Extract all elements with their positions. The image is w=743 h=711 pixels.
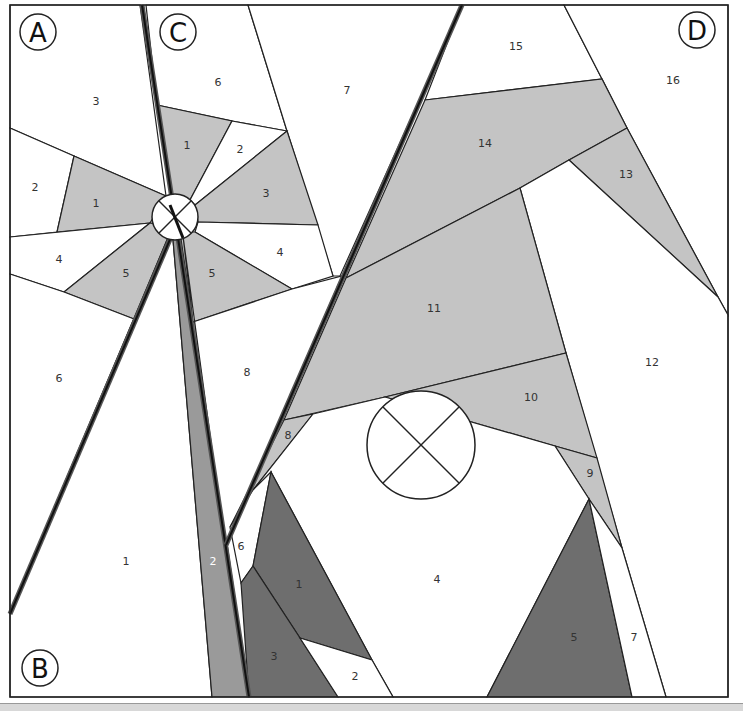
corner-label-c: C — [160, 14, 196, 50]
label-a5: 5 — [123, 267, 130, 280]
label-d11: 11 — [427, 302, 441, 315]
label-d15: 15 — [509, 40, 523, 53]
label-d5: 5 — [571, 631, 578, 644]
label-d1: 1 — [296, 578, 303, 591]
label-d4: 4 — [434, 573, 441, 586]
label-a1: 1 — [93, 197, 100, 210]
label-a2: 2 — [32, 181, 39, 194]
label-c4: 4 — [277, 246, 284, 259]
small-crossed-circle-icon — [152, 194, 198, 240]
label-d14: 14 — [478, 137, 492, 150]
corner-label-d: D — [679, 12, 715, 48]
label-d3: 3 — [271, 650, 278, 663]
corner-label-a: A — [20, 14, 56, 50]
svg-text:A: A — [29, 18, 47, 48]
label-d8: 8 — [285, 429, 292, 442]
label-a4: 4 — [56, 253, 63, 266]
label-d6: 6 — [238, 540, 245, 553]
label-d10: 10 — [524, 391, 538, 404]
label-c5: 5 — [209, 267, 216, 280]
label-b2: 2 — [210, 555, 217, 568]
label-c3: 3 — [263, 187, 270, 200]
label-c6: 6 — [215, 76, 222, 89]
large-crossed-circle-icon — [367, 391, 475, 499]
label-d16: 16 — [666, 74, 680, 87]
label-c8: 8 — [244, 366, 251, 379]
label-d7: 7 — [631, 631, 638, 644]
label-d13: 13 — [619, 168, 633, 181]
label-c1: 1 — [184, 139, 191, 152]
label-c7: 7 — [344, 84, 351, 97]
svg-text:D: D — [687, 16, 707, 46]
label-b1: 1 — [123, 555, 130, 568]
label-a3: 3 — [93, 95, 100, 108]
svg-text:B: B — [31, 654, 49, 684]
bottom-edge — [0, 703, 743, 711]
svg-text:C: C — [169, 18, 187, 48]
corner-label-b: B — [22, 650, 58, 686]
label-d12: 12 — [645, 356, 659, 369]
label-d9: 9 — [587, 467, 594, 480]
label-a6: 6 — [56, 372, 63, 385]
label-d2: 2 — [352, 670, 359, 683]
label-c2: 2 — [237, 143, 244, 156]
